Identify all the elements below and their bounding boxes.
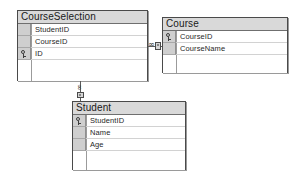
entity-empty-area <box>163 55 287 73</box>
field-name: StudentID <box>86 115 124 127</box>
entity-title-course-selection: CourseSelection <box>18 11 147 24</box>
entity-body-course: CourseID CourseName <box>163 31 287 73</box>
entity-title-student: Student <box>73 102 185 115</box>
entity-course[interactable]: Course CourseID CourseName <box>162 17 288 73</box>
field-row[interactable]: CourseID <box>163 31 287 43</box>
field-name: CourseName <box>176 43 225 55</box>
field-key-cell[interactable] <box>18 36 31 48</box>
cardinality-many-marker: ∞ <box>148 41 155 49</box>
entity-body-student: StudentID Name Age <box>73 115 185 170</box>
entity-course-selection[interactable]: CourseSelection StudentID CourseID ID <box>17 10 148 81</box>
field-name: StudentID <box>31 24 69 36</box>
primary-key-icon <box>21 50 28 58</box>
primary-key-icon <box>166 33 173 41</box>
field-row[interactable]: CourseName <box>163 43 287 55</box>
entity-empty-area <box>73 151 185 170</box>
primary-key-icon <box>76 117 83 125</box>
field-row[interactable]: Age <box>73 139 185 151</box>
field-row[interactable]: ID <box>18 48 147 60</box>
field-key-cell[interactable] <box>73 115 86 127</box>
field-name: CourseID <box>31 36 67 48</box>
erd-canvas: CourseSelection StudentID CourseID ID <box>0 0 303 185</box>
field-key-cell[interactable] <box>73 139 86 151</box>
field-row[interactable]: StudentID <box>18 24 147 36</box>
field-key-cell[interactable] <box>73 127 86 139</box>
cardinality-one-marker <box>77 92 84 98</box>
field-name: ID <box>31 48 43 60</box>
field-name: Name <box>86 127 110 139</box>
field-name: Age <box>86 139 104 151</box>
field-key-cell[interactable] <box>18 48 31 60</box>
field-key-cell[interactable] <box>163 31 176 43</box>
field-row[interactable]: StudentID <box>73 115 185 127</box>
field-key-cell[interactable] <box>163 43 176 55</box>
entity-body-course-selection: StudentID CourseID ID <box>18 24 147 81</box>
field-name: CourseID <box>176 31 212 43</box>
field-row[interactable]: Name <box>73 127 185 139</box>
entity-title-course: Course <box>163 18 287 31</box>
entity-empty-area <box>18 60 147 81</box>
entity-student[interactable]: Student StudentID Name Age <box>72 101 186 170</box>
cardinality-one-marker <box>155 42 161 50</box>
field-key-cell[interactable] <box>18 24 31 36</box>
field-row[interactable]: CourseID <box>18 36 147 48</box>
cardinality-many-marker: ∞ <box>75 84 83 91</box>
